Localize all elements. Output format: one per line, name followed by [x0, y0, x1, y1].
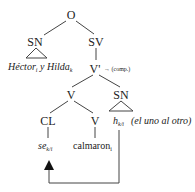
verb-calmaron: calmaron: [73, 140, 110, 151]
node-v-bar: V': [90, 62, 101, 76]
edge-o-sn: [44, 21, 66, 35]
subject-hilda: Hilda: [46, 61, 70, 72]
edge-vbar-sn: [99, 75, 120, 87]
subject-triangle: [26, 48, 47, 58]
subject-sub-k: k: [70, 67, 73, 73]
object-triangle: [109, 101, 133, 111]
syntax-tree-diagram: O SN SV Héctori y Hildak V' → (comp.) V …: [0, 0, 195, 192]
verb-leaf: calmaroni: [73, 140, 112, 152]
clitic-leaf: sek/i: [38, 140, 53, 152]
trace-gloss: (el uno al otro): [131, 115, 192, 127]
node-cl: CL: [40, 114, 55, 128]
edge-vbar-v: [72, 75, 93, 87]
subject-hector: Héctor: [7, 61, 36, 72]
node-sv: SV: [88, 35, 104, 49]
edge-v-cl: [50, 101, 68, 113]
trace-sub: k/i: [118, 121, 124, 127]
arrow-head-icon: [44, 160, 54, 170]
edge-o-sv: [76, 21, 94, 34]
node-o: O: [67, 8, 76, 22]
node-sn-subject: SN: [27, 35, 43, 49]
node-sn-object: SN: [113, 88, 129, 102]
edge-v-v: [74, 101, 93, 113]
arrow-path: [49, 130, 119, 183]
trace-leaf: hk/i: [113, 115, 124, 127]
clitic-sub: k/i: [46, 146, 52, 152]
verb-sub: i: [110, 146, 112, 152]
subject-conj: y: [37, 61, 46, 72]
subject-leaf: Héctori y Hildak: [7, 61, 73, 73]
movement-arrow: [44, 130, 119, 183]
node-v-verb: V: [91, 114, 100, 128]
v-bar-comp-note: → (comp.): [104, 66, 130, 73]
node-v-head: V: [67, 88, 76, 102]
